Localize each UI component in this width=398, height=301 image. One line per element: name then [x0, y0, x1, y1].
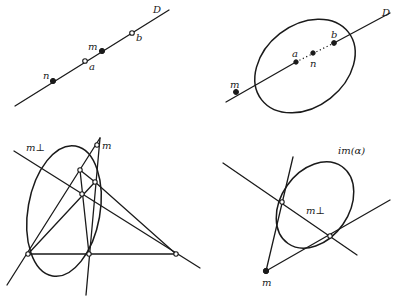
tangent-1	[266, 157, 293, 271]
label-b: b	[331, 29, 337, 40]
panel-top-right: m a n b D	[226, 0, 390, 132]
label-n: n	[310, 58, 316, 69]
segment-to-pole	[95, 182, 176, 254]
label-m: m	[262, 277, 271, 288]
point-m	[263, 268, 268, 273]
line-m-left	[7, 138, 100, 285]
point-b	[332, 41, 337, 46]
label-m-perp: m⊥	[306, 205, 325, 216]
point-q4	[26, 252, 30, 256]
point-q3	[80, 192, 84, 196]
point-m	[234, 90, 239, 95]
label-a: a	[89, 61, 95, 72]
point-n	[50, 78, 55, 83]
panel-bottom-right: m m⊥ im(α)	[223, 145, 390, 288]
label-im-alpha: im(α)	[338, 145, 365, 156]
point-q6	[174, 252, 178, 256]
line-d	[15, 10, 169, 106]
label-m: m	[102, 140, 111, 151]
label-d: D	[152, 4, 161, 15]
ellipse	[236, 0, 373, 132]
point-q1	[78, 168, 82, 172]
point-tangent-2	[328, 234, 332, 238]
point-a	[294, 60, 298, 64]
point-q5	[87, 252, 91, 256]
line-m-right	[86, 138, 100, 295]
label-a: a	[292, 48, 298, 59]
label-m-perp: m⊥	[26, 142, 45, 153]
point-tangent-1	[280, 200, 284, 204]
label-b: b	[136, 32, 142, 43]
panel-bottom-left: m m⊥	[7, 138, 200, 295]
label-m: m	[88, 41, 97, 52]
segment-diag-1	[80, 170, 89, 254]
segment-top	[80, 170, 95, 182]
panel-top-left: n a m b D	[15, 4, 169, 106]
point-b	[130, 31, 135, 36]
point-a	[83, 59, 88, 64]
label-d: D	[381, 7, 390, 18]
point-m	[99, 48, 104, 53]
label-m: m	[230, 79, 239, 90]
point-m	[95, 143, 99, 147]
diagram-canvas: n a m b D m a n b D	[0, 0, 398, 301]
point-n	[311, 51, 315, 55]
line-m-perp	[223, 163, 357, 255]
point-q2	[93, 180, 97, 184]
label-n: n	[43, 70, 49, 81]
